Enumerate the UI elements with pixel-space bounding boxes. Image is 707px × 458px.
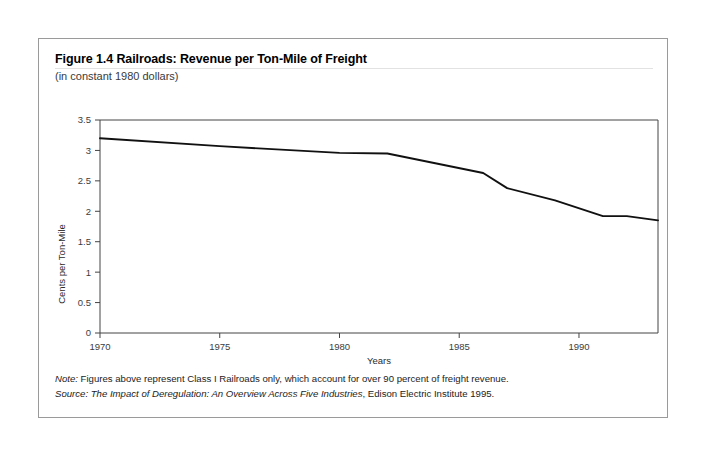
source-line: Source: The Impact of Deregulation: An O… [55, 386, 655, 401]
y-axis: 00.511.522.533.5 [78, 114, 100, 338]
y-tick-label: 3 [86, 145, 91, 156]
x-tick-label: 1975 [209, 341, 230, 352]
y-tick-label: 0 [86, 327, 91, 338]
y-tick-label: 2 [86, 206, 91, 217]
y-tick-label: 1 [86, 267, 91, 278]
y-tick-label: 3.5 [78, 114, 91, 125]
chart-svg: 00.511.522.533.5 19701975198019851990 Ce… [39, 39, 669, 419]
data-series-line [100, 138, 658, 220]
note-line: Note: Figures above represent Class I Ra… [55, 371, 655, 386]
note-text: Figures above represent Class I Railroad… [78, 373, 509, 384]
y-tick-label: 0.5 [78, 297, 91, 308]
source-rest: , Edison Electric Institute 1995. [363, 388, 495, 399]
x-tick-label: 1990 [568, 341, 589, 352]
series-line-revenue-per-ton-mile [100, 138, 658, 220]
x-axis: 19701975198019851990 [89, 120, 658, 352]
y-tick-label: 1.5 [78, 236, 91, 247]
x-tick-label: 1985 [449, 341, 470, 352]
source-title: The Impact of Deregulation: An Overview … [88, 388, 362, 399]
footnotes-block: Note: Figures above represent Class I Ra… [55, 371, 655, 401]
chart-plot-area: 00.511.522.533.5 19701975198019851990 Ce… [39, 39, 669, 419]
note-label: Note: [55, 373, 78, 384]
source-label: Source: [55, 388, 88, 399]
x-tick-label: 1980 [329, 341, 350, 352]
y-axis-title: Cents per Ton-Mile [56, 224, 67, 304]
figure-container: Figure 1.4 Railroads: Revenue per Ton-Mi… [38, 38, 668, 418]
x-axis-title: Years [367, 355, 391, 366]
x-tick-label: 1970 [89, 341, 110, 352]
y-tick-label: 2.5 [78, 175, 91, 186]
